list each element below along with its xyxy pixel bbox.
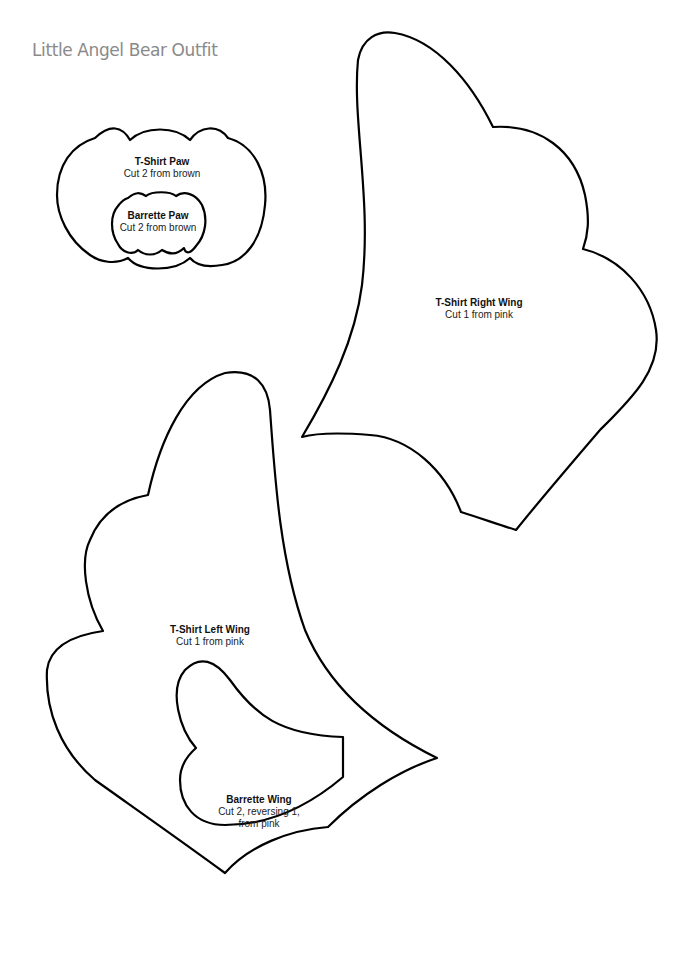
piece-label-tshirt-left-wing: T-Shirt Left Wing Cut 1 from pink xyxy=(170,624,250,648)
piece-label-tshirt-paw: T-Shirt Paw Cut 2 from brown xyxy=(124,156,201,180)
tshirt-right-wing-outline xyxy=(302,32,657,530)
piece-instruction: Cut 2 from brown xyxy=(124,168,201,180)
piece-name: Barrette Wing xyxy=(218,794,300,806)
piece-name: T-Shirt Left Wing xyxy=(170,624,250,636)
piece-name: Barrette Paw xyxy=(120,210,197,222)
piece-instruction: Cut 2, reversing 1, xyxy=(218,806,300,818)
pattern-outlines xyxy=(0,0,697,964)
piece-instruction: Cut 2 from brown xyxy=(120,222,197,234)
piece-label-barrette-wing: Barrette Wing Cut 2, reversing 1, from p… xyxy=(218,794,300,830)
piece-instruction: Cut 1 from pink xyxy=(435,309,522,321)
piece-name: T-Shirt Paw xyxy=(124,156,201,168)
piece-instruction: from pink xyxy=(218,818,300,830)
piece-label-tshirt-right-wing: T-Shirt Right Wing Cut 1 from pink xyxy=(435,297,522,321)
piece-label-barrette-paw: Barrette Paw Cut 2 from brown xyxy=(120,210,197,234)
tshirt-paw-outline xyxy=(57,128,265,268)
piece-instruction: Cut 1 from pink xyxy=(170,636,250,648)
piece-name: T-Shirt Right Wing xyxy=(435,297,522,309)
